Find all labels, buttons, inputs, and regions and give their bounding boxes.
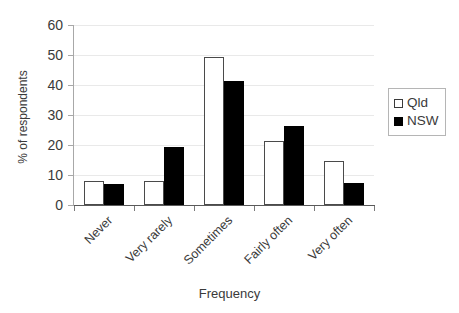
filled-square-swatch-icon [394, 117, 403, 126]
y-tick-label: 40 [23, 78, 63, 92]
bar-very-often-qld [324, 161, 344, 205]
legend-label-qld: Qld [407, 96, 428, 110]
x-axis-line [74, 205, 375, 206]
y-tick-label: 20 [23, 138, 63, 152]
y-tick-mark [68, 25, 73, 26]
bar-very-rarely-nsw [164, 147, 184, 205]
chart-legend: Qld NSW [388, 88, 446, 136]
x-tick-mark [194, 206, 195, 211]
bar-fairly-often-nsw [284, 126, 304, 206]
gridline [74, 55, 374, 56]
open-square-swatch-icon [394, 99, 403, 108]
y-tick-mark [68, 145, 73, 146]
gridline [74, 25, 374, 26]
bar-sometimes-nsw [224, 81, 244, 205]
y-tick-label: 10 [23, 168, 63, 182]
bar-very-often-nsw [344, 183, 364, 206]
y-tick-mark [68, 115, 73, 116]
bar-fairly-often-qld [264, 141, 284, 206]
bar-sometimes-qld [204, 57, 224, 206]
y-tick-mark [68, 85, 73, 86]
legend-item-nsw: NSW [394, 112, 439, 130]
legend-item-qld: Qld [394, 94, 439, 112]
x-tick-mark [314, 206, 315, 211]
y-tick-mark [68, 55, 73, 56]
legend-label-nsw: NSW [407, 114, 439, 128]
y-tick-mark [68, 205, 73, 206]
x-tick-mark [74, 206, 75, 211]
y-tick-label: 50 [23, 48, 63, 62]
y-tick-label: 60 [23, 18, 63, 32]
y-tick-label: 30 [23, 108, 63, 122]
bar-very-rarely-qld [144, 181, 164, 205]
y-axis-line [73, 25, 74, 206]
x-tick-mark [374, 206, 375, 211]
y-tick-mark [68, 175, 73, 176]
bar-never-qld [84, 181, 104, 205]
plot-area [74, 25, 374, 205]
bar-never-nsw [104, 184, 124, 205]
x-tick-mark [254, 206, 255, 211]
bar-chart: % of respondents Frequency Qld NSW 01020… [0, 0, 459, 313]
x-tick-mark [134, 206, 135, 211]
y-tick-label: 0 [23, 198, 63, 212]
